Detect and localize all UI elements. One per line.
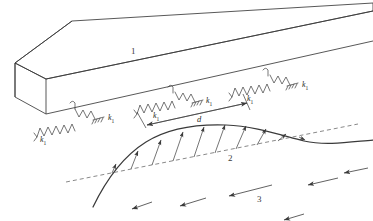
spring-group-right [229,68,298,101]
right-spring-limb [270,75,290,85]
spring-end-label-left: k1 [108,114,114,124]
dimension-label-d: d [197,115,201,124]
spring-end-label-middle-sub: 1 [210,101,213,107]
gap-arrow [194,127,204,157]
callout-label-beam: 1 [131,47,136,56]
middle-damper-h1 [191,103,193,107]
dim-witness-left [137,112,146,128]
right-damper-h4 [295,84,297,88]
gap-arrow [173,132,183,161]
beam-top-face [15,3,373,79]
spring-group-middle [134,85,203,118]
flow-arrow [180,198,206,206]
middle-spring-tail [134,110,137,118]
spring-label-left-sub: 1 [44,140,47,146]
gap-arrow [215,125,225,153]
spring-label-middle-sub: 1 [157,116,160,122]
diagram-canvas [0,0,373,221]
gap-arrow-set [112,125,305,173]
gap-arrow [257,129,266,145]
spring-end-label-right: k1 [302,81,308,91]
flow-arrow [344,168,368,173]
technical-diagram: 1 2 3 k1 k1 k1 k1 k1 k1 d [0,0,373,221]
middle-damper-h4 [200,101,202,105]
flow-arrow-set [132,168,368,220]
gap-arrow [236,126,246,149]
spring-end-label-left-sub: 1 [112,118,115,124]
spring-label-middle: k1 [153,112,159,122]
beam-end-top [15,21,72,63]
beam-front-face [15,63,46,114]
gap-arrow [131,151,138,169]
right-hanger [263,68,268,76]
callout-label-flow: 3 [257,195,262,204]
beam-solid [15,3,373,114]
spring-label-left: k1 [40,136,46,146]
reference-datum-line [66,124,358,182]
callout-label-terrain: 2 [228,154,233,163]
left-damper-h1 [92,120,94,124]
left-spring-limb [75,109,95,119]
right-spring-tail [229,93,232,101]
right-damper-h1 [286,86,288,90]
middle-spring-limb [175,92,195,102]
spring-label-right: k1 [247,95,253,105]
gap-arrow [152,140,161,165]
spring-end-label-right-sub: 1 [306,85,309,91]
left-damper-h4 [101,118,103,122]
flow-arrow [229,185,272,196]
flow-arrow [132,202,152,209]
spring-label-right-sub: 1 [251,99,254,105]
beam-lower-edge [46,11,373,79]
flow-arrow [284,214,304,220]
left-spring-tail [34,133,37,141]
spring-end-label-middle: k1 [206,97,212,107]
flow-arrow [308,178,338,185]
